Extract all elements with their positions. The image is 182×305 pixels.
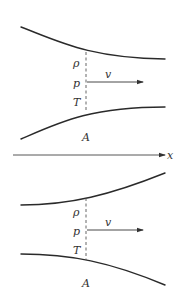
temperature-label: T (73, 244, 82, 257)
x-axis-label: x (167, 149, 174, 162)
diverging-nozzle: ρ p T v A (21, 173, 165, 290)
area-label: A (81, 277, 90, 290)
lower-wall (21, 107, 165, 139)
area-label: A (81, 131, 90, 144)
nozzle-flow-diagram: ρ p T v A x ρ p T v A (0, 0, 182, 305)
upper-wall (21, 173, 165, 205)
converging-nozzle: ρ p T v A (21, 27, 165, 144)
lower-wall (21, 254, 165, 285)
x-axis: x (13, 149, 174, 162)
temperature-label: T (73, 96, 82, 109)
density-label: ρ (72, 57, 80, 70)
velocity-label: v (105, 216, 112, 229)
pressure-label: p (73, 77, 80, 90)
density-label: ρ (72, 206, 80, 219)
pressure-label: p (73, 225, 80, 238)
velocity-label: v (105, 68, 112, 81)
upper-wall (21, 27, 165, 59)
